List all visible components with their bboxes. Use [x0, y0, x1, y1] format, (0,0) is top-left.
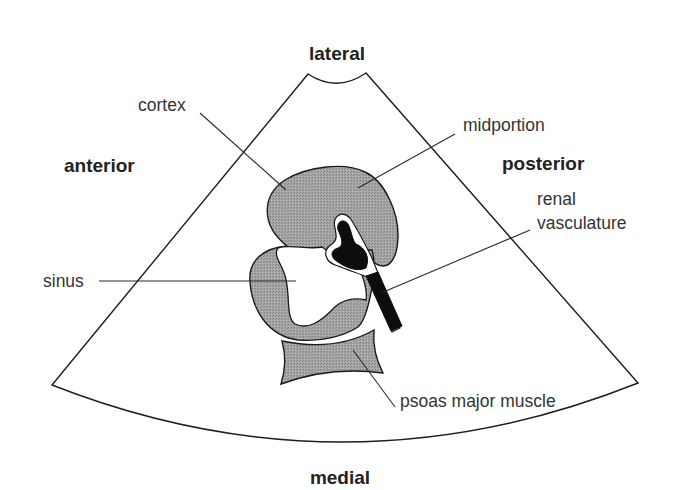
label-posterior: posterior [502, 153, 585, 174]
label-psoas-major-muscle: psoas major muscle [400, 391, 556, 411]
label-renal: renal [537, 189, 576, 209]
ultrasound-diagram: lateral medial anterior posterior cortex… [0, 0, 673, 490]
label-medial: medial [310, 467, 370, 488]
label-anterior: anterior [64, 155, 135, 176]
label-vasculature: vasculature [537, 213, 627, 233]
diagram-canvas: lateral medial anterior posterior cortex… [0, 0, 673, 490]
label-lateral: lateral [309, 43, 365, 64]
label-cortex: cortex [138, 95, 186, 115]
label-midportion: midportion [463, 115, 545, 135]
label-sinus: sinus [43, 271, 84, 291]
